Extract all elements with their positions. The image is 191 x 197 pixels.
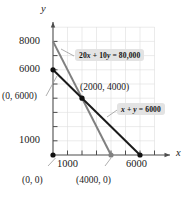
- point-origin: [50, 152, 55, 157]
- y-axis-label: y: [41, 4, 46, 15]
- point-4000-0: [108, 152, 113, 157]
- y-tick-label-8000: 8000: [19, 36, 40, 47]
- eq1-rhs: = 80,000: [110, 51, 140, 60]
- point-2000-4000: [79, 96, 84, 101]
- y-axis-ticks: [53, 41, 58, 140]
- x-tick-label-1000: 1000: [57, 159, 78, 170]
- y-tick-label-1000: 1000: [19, 135, 40, 146]
- x-axis-arrowhead: [165, 153, 171, 157]
- label-point-4000-0: (4000, 0): [76, 176, 111, 186]
- equation-callout-constraint-1: 20x + 10y = 80,000: [75, 49, 144, 61]
- equation-callout-constraint-2: x + y = 6000: [117, 103, 165, 115]
- eq1-coef-1: 20: [79, 51, 87, 60]
- label-point-2000-4000: (2000, 4000): [80, 83, 129, 93]
- eq2-rhs: = 6000: [137, 105, 161, 114]
- label-point-origin: (0, 0): [22, 176, 43, 186]
- point-6000-0: [137, 152, 142, 157]
- x-tick-label-6000: 6000: [126, 159, 147, 170]
- x-axis-label: x: [176, 148, 181, 159]
- leader-lines: [46, 49, 120, 166]
- graph-figure: y x 8000 6000 1000 1000 6000 (0, 6000) (…: [0, 0, 191, 197]
- y-axis-arrowhead: [51, 22, 55, 28]
- eq1-plus: +: [91, 51, 99, 60]
- eq1-coef-2: 10: [99, 51, 107, 60]
- point-0-6000: [50, 67, 55, 72]
- label-point-0-6000: (0, 6000): [2, 92, 37, 102]
- y-tick-label-6000: 6000: [19, 64, 40, 75]
